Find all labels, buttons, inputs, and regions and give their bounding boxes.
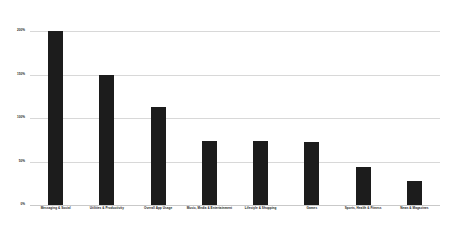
gridline: 100% [30, 118, 440, 119]
bar[interactable] [202, 141, 217, 205]
plot-area: 200%150%100%50%0% [30, 31, 440, 205]
bar[interactable] [356, 167, 371, 205]
x-axis-tick-label: Overall App Usage [144, 207, 172, 210]
x-axis-tick-label: Messaging & Social [41, 207, 71, 210]
bar[interactable] [304, 142, 319, 206]
x-axis-tick-label: Lifestyle & Shopping [245, 207, 277, 210]
bar[interactable] [407, 181, 422, 205]
x-axis-tick-label: Sports, Health & Fitness [345, 207, 382, 210]
gridline: 200% [30, 31, 440, 32]
bar[interactable] [48, 31, 63, 205]
x-axis-tick-label: News & Magazines [400, 207, 428, 210]
x-axis-tick-label: Games [307, 207, 318, 210]
x-axis-tick-label: Music, Media & Entertainment [187, 207, 232, 210]
y-axis-tick-label: 50% [19, 160, 25, 163]
y-axis-tick-label: 150% [17, 73, 25, 76]
bar-chart: 200%150%100%50%0% Messaging & SocialUtil… [0, 0, 458, 229]
gridline: 150% [30, 75, 440, 76]
bar[interactable] [151, 107, 166, 205]
x-axis-labels: Messaging & SocialUtilities & Productivi… [30, 207, 440, 221]
gridline: 50% [30, 162, 440, 163]
bar[interactable] [99, 75, 114, 206]
bar[interactable] [253, 141, 268, 205]
y-axis-tick-label: 200% [17, 29, 25, 32]
x-axis-tick-label: Utilities & Productivity [90, 207, 124, 210]
y-axis-tick-label: 100% [17, 116, 25, 119]
y-axis-tick-label: 0% [20, 203, 25, 206]
